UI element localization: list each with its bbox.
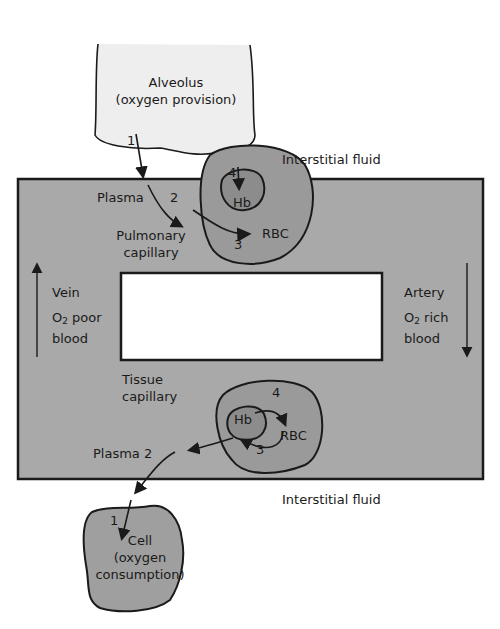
alveolus-title: Alveolus — [112, 74, 240, 91]
o2-symbol: O — [404, 310, 414, 325]
hb-label-pulmonary: Hb — [233, 194, 251, 211]
interstitial-fluid-bottom: Interstitial fluid — [282, 491, 381, 508]
step-4-pulmonary: 4 — [228, 165, 236, 180]
cell-subtitle-line2: consumption) — [92, 566, 188, 583]
hb-label-tissue: Hb — [234, 411, 252, 428]
o2-descriptor: poor — [68, 310, 102, 325]
vein-label: Vein — [52, 284, 102, 301]
artery-blood-label: blood — [404, 330, 448, 347]
plasma-label-pulmonary: Plasma — [97, 189, 144, 206]
step-1-tissue: 1 — [110, 513, 118, 528]
artery-label-block: Artery O2 rich blood — [404, 284, 448, 347]
vein-label-block: Vein O2 poor blood — [52, 284, 102, 347]
alveolus-subtitle: (oxygen provision) — [112, 91, 240, 108]
arrow-step-4-pulmonary — [238, 167, 239, 188]
step-4-tissue: 4 — [272, 385, 280, 400]
o2-descriptor: rich — [420, 310, 448, 325]
cell-title: Cell — [92, 532, 188, 549]
step-2-pulmonary: 2 — [170, 190, 178, 205]
vessel-center — [121, 273, 382, 360]
rbc-label-tissue: RBC — [280, 427, 307, 444]
interstitial-fluid-top: Interstitial fluid — [282, 151, 381, 168]
tissue-capillary-line1: Tissue — [122, 371, 177, 388]
plasma-label-tissue: Plasma 2 — [93, 445, 152, 462]
step-3-pulmonary: 3 — [234, 237, 242, 252]
step-3-tissue: 3 — [256, 442, 264, 457]
o2-symbol: O — [52, 310, 62, 325]
rbc-label-pulmonary: RBC — [262, 225, 289, 242]
step-1-pulmonary: 1 — [127, 133, 135, 148]
artery-label: Artery — [404, 284, 448, 301]
cell-label: Cell (oxygen consumption) — [92, 532, 188, 583]
pulmonary-capillary-label: Pulmonary capillary — [106, 227, 196, 261]
vein-blood-label: blood — [52, 330, 102, 347]
pulmonary-capillary-line2: capillary — [106, 244, 196, 261]
tissue-capillary-label: Tissue capillary — [122, 371, 177, 405]
artery-o2-label: O2 rich — [404, 309, 448, 330]
tissue-capillary-line2: capillary — [122, 388, 177, 405]
cell-subtitle-line1: (oxygen — [92, 549, 188, 566]
vein-o2-label: O2 poor — [52, 309, 102, 330]
pulmonary-capillary-line1: Pulmonary — [106, 227, 196, 244]
alveolus-label: Alveolus (oxygen provision) — [112, 74, 240, 108]
